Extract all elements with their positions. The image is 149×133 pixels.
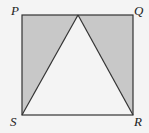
vertex-label-q: Q: [134, 4, 143, 17]
vertex-label-r: R: [134, 115, 142, 128]
vertex-label-s: S: [10, 115, 17, 128]
square-diagram: [0, 0, 149, 133]
vertex-label-p: P: [11, 4, 19, 17]
